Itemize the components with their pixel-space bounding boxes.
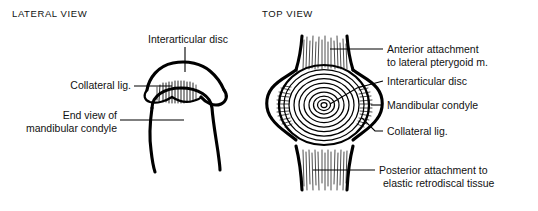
top-condyle-lobe-left [267,70,296,140]
label-lateral-interarticular-disc: Interarticular disc [148,33,228,45]
label-lateral-collateral-lig: Collateral lig. [70,79,131,91]
label-top-posterior-attachment-line1: Posterior attachment to [379,164,488,176]
lateral-view-heading: LATERAL VIEW [12,8,87,19]
label-top-collateral-lig: Collateral lig. [387,125,448,137]
top-posterior-band-right-edge [347,146,353,190]
label-top-mandibular-condyle: Mandibular condyle [387,99,478,111]
label-top-posterior-attachment-line2: elastic retrodiscal tissue [383,177,495,189]
top-view-heading: TOP VIEW [262,8,313,19]
lateral-view-drawing [145,62,227,172]
disc-ring-5 [299,83,349,127]
top-interarticular-disc-rings [279,65,369,145]
disc-ring-10 [321,103,327,108]
disc-ring-9 [318,100,331,111]
label-lateral-end-view-line1: End view of [63,109,117,121]
lateral-disc-lower-contour [172,97,201,102]
disc-ring-4 [294,79,354,132]
label-top-interarticular-disc: Interarticular disc [387,75,467,87]
label-lateral-end-view-line2: mandibular condyle [26,122,117,134]
disc-ring-8 [314,96,335,114]
anatomical-figure: LATERAL VIEW TOP VIEW [0,0,538,211]
label-top-anterior-attachment-line2: to lateral pterygoid m. [387,56,488,68]
lateral-condyle-left-neck [150,108,155,172]
top-posterior-band-left-edge [296,146,302,190]
lateral-condyle-outline [152,88,220,170]
top-anterior-band-left-edge [296,36,302,70]
disc-ring-1 [279,65,369,145]
top-view-drawing [267,36,383,190]
lateral-disc-posterior-limb [201,90,226,105]
figure-canvas: LATERAL VIEW TOP VIEW [0,0,538,211]
disc-ring-6 [304,88,344,123]
top-anterior-band-right-edge [347,36,353,70]
disc-ring-2 [284,70,364,141]
label-top-anterior-attachment-line1: Anterior attachment [387,43,479,55]
